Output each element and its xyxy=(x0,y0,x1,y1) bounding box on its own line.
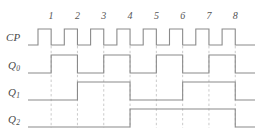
cycle-number-7: 7 xyxy=(201,10,217,21)
signal-label-cp: CP xyxy=(6,31,20,43)
cp-waveform xyxy=(28,29,255,45)
signal-label-q0-text: Q xyxy=(8,59,16,71)
timing-diagram-figure: CP Q0 Q1 Q2 12345678 xyxy=(0,0,261,138)
q0-waveform xyxy=(28,55,255,73)
signal-label-q2-subscript: 2 xyxy=(16,118,20,127)
cycle-number-6: 6 xyxy=(175,10,191,21)
signal-label-cp-text: CP xyxy=(6,31,20,43)
cycle-number-8: 8 xyxy=(227,10,243,21)
signal-label-q2: Q2 xyxy=(8,113,20,127)
signal-label-q0-subscript: 0 xyxy=(16,64,20,73)
cycle-number-1: 1 xyxy=(43,10,59,21)
signal-label-q0: Q0 xyxy=(8,59,20,73)
cycle-number-4: 4 xyxy=(122,10,138,21)
cycle-number-5: 5 xyxy=(148,10,164,21)
signal-label-q1-text: Q xyxy=(8,86,16,98)
signal-label-q1: Q1 xyxy=(8,86,20,100)
cycle-number-3: 3 xyxy=(96,10,112,21)
signal-label-q1-subscript: 1 xyxy=(16,91,20,100)
cycle-number-2: 2 xyxy=(70,10,86,21)
q2-waveform xyxy=(28,109,255,127)
signal-label-q2-text: Q xyxy=(8,113,16,125)
q1-waveform xyxy=(28,82,255,100)
dashed-guide-lines xyxy=(51,46,235,128)
